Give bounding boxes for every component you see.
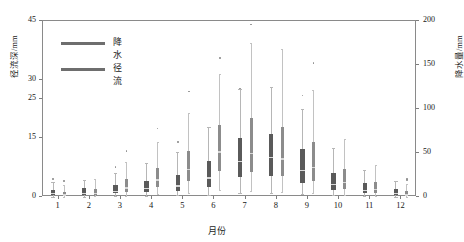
left-y-tick-label: 15 — [14, 132, 36, 141]
y-axis-left-title: 径流深/mm — [7, 35, 19, 78]
whisker-cap — [125, 196, 127, 197]
x-axis-title: 月份 — [208, 224, 226, 237]
x-tickmark — [89, 196, 90, 199]
right-y-tick-label: 150 — [423, 59, 447, 68]
right-y-tickmark — [416, 20, 419, 21]
x-tick-label: 8 — [265, 200, 287, 210]
x-tick-label: 1 — [47, 200, 69, 210]
x-tick-label: 11 — [358, 200, 380, 210]
x-tickmark — [182, 196, 183, 199]
x-tickmark — [369, 196, 370, 199]
right-y-tickmark — [416, 196, 419, 197]
y-axis-right-title: 降水量/mm — [452, 35, 464, 78]
whisker-cap — [51, 197, 54, 198]
right-y-tickmark — [416, 64, 419, 65]
whisker-cap — [63, 197, 65, 198]
whisker-cap — [332, 195, 335, 196]
x-tick-label: 7 — [234, 200, 256, 210]
boxplot-降水-month-12 — [43, 21, 415, 195]
whisker-cap — [83, 197, 86, 198]
x-tickmark — [307, 196, 308, 199]
x-tick-label: 10 — [327, 200, 349, 210]
left-y-tick-label: 45 — [14, 15, 36, 24]
x-tickmark — [276, 196, 277, 199]
x-tickmark — [58, 196, 59, 199]
whisker-cap — [145, 196, 148, 197]
right-y-tick-label: 50 — [423, 147, 447, 156]
plot-area: 降水 径流 — [42, 20, 416, 196]
x-tickmark — [213, 196, 214, 199]
x-tickmark — [245, 196, 246, 199]
median-line — [405, 194, 408, 195]
outlier-point — [406, 178, 408, 180]
whisker-cap — [375, 196, 377, 197]
whisker-cap — [406, 184, 408, 185]
right-y-tick-label: 200 — [423, 15, 447, 24]
x-tick-label: 4 — [140, 200, 162, 210]
series-precipitation — [43, 21, 415, 195]
whisker-cap — [363, 196, 366, 197]
left-y-tick-label: 0 — [14, 191, 36, 200]
x-tick-label: 5 — [171, 200, 193, 210]
right-y-tick-label: 0 — [423, 191, 447, 200]
x-tick-label: 12 — [389, 200, 411, 210]
left-y-tick-label: 25 — [14, 93, 36, 102]
x-tick-label: 2 — [78, 200, 100, 210]
x-tickmark — [400, 196, 401, 199]
left-y-tick-label: 30 — [14, 74, 36, 83]
left-y-tickmark — [39, 98, 42, 99]
whisker-cap — [94, 196, 96, 197]
x-tick-label: 9 — [296, 200, 318, 210]
x-tickmark — [151, 196, 152, 199]
x-tick-label: 6 — [202, 200, 224, 210]
x-tickmark — [120, 196, 121, 199]
right-y-tick-label: 100 — [423, 103, 447, 112]
right-y-tickmark — [416, 152, 419, 153]
left-y-tickmark — [39, 196, 42, 197]
whisker-cap — [176, 195, 179, 196]
left-y-tickmark — [39, 20, 42, 21]
whisker-cap — [394, 197, 397, 198]
x-tick-label: 3 — [109, 200, 131, 210]
left-y-tickmark — [39, 137, 42, 138]
right-y-tickmark — [416, 108, 419, 109]
left-y-tickmark — [39, 79, 42, 80]
x-tickmark — [338, 196, 339, 199]
whisker-cap — [344, 195, 346, 196]
whisker-cap — [406, 197, 408, 198]
whisker-cap — [114, 196, 117, 197]
